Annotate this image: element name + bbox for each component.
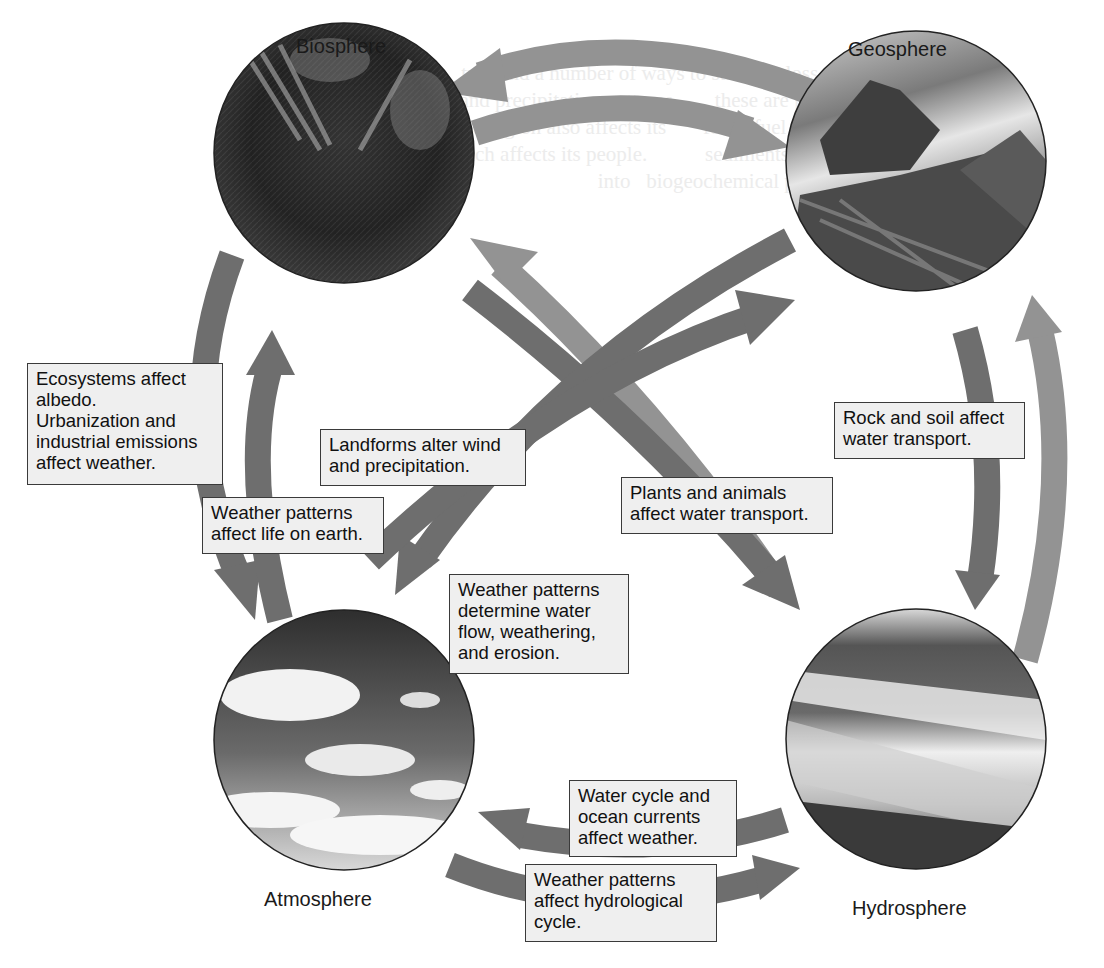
callout-weather-hydrological: Weather patterns affect hydrological cyc… <box>525 864 717 942</box>
geosphere-label: Geosphere <box>848 38 947 61</box>
callout-weather-erosion: Weather patterns determine water flow, w… <box>449 574 629 674</box>
arrow-hydrosphere-to-geosphere <box>1015 295 1062 660</box>
atmosphere-label: Atmosphere <box>264 888 372 911</box>
callout-water-cycle-weather: Water cycle and ocean currents affect we… <box>569 780 737 857</box>
hydrosphere-photo <box>786 609 1046 869</box>
callout-rock-soil-water: Rock and soil affect water transport. <box>834 402 1025 459</box>
biosphere-label: Biosphere <box>296 35 386 58</box>
biosphere-photo <box>214 23 474 283</box>
atmosphere-photo <box>200 610 474 870</box>
callout-plants-animals-water: Plants and animals affect water transpor… <box>621 477 833 534</box>
callout-ecosystems-affect-weather: Ecosystems affect albedo. Urbanization a… <box>27 363 223 485</box>
arrow-biosphere-to-geosphere <box>475 108 790 160</box>
arrow-geosphere-to-hydrosphere <box>955 330 1000 610</box>
geosphere-photo <box>786 31 1046 300</box>
callout-weather-affects-life: Weather patterns affect life on earth. <box>202 497 384 554</box>
callout-landforms-alter-wind: Landforms alter wind and precipitation. <box>320 429 526 486</box>
arrow-geosphere-to-biosphere <box>440 48 830 102</box>
hydrosphere-label: Hydrosphere <box>852 897 967 920</box>
